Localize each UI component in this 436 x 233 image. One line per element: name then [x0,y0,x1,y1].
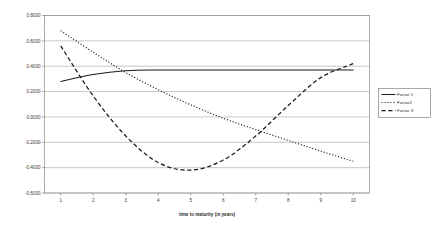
y-tick-label: -0.6000 [25,191,41,196]
legend-label-factor2: Factor2 [397,100,412,105]
legend-label-factor-3: Factor 3 [397,108,414,113]
x-tick-label: 3 [124,198,127,203]
y-tick-label: 0.2000 [26,89,40,94]
y-tick-label: -0.4000 [25,165,41,170]
legend-label-factor-1: Factor 1 [397,92,414,97]
y-tick-label: -0.2000 [25,140,41,145]
x-tick-label: 4 [157,198,160,203]
x-tick-label: 9 [319,198,322,203]
x-tick-label: 6 [222,198,225,203]
factor-loadings-line-chart: 0.80000.60000.40000.20000.0000-0.2000-0.… [0,0,436,233]
chart-background [0,0,436,233]
y-tick-label: 0.8000 [26,13,40,18]
x-tick-label: 8 [287,198,290,203]
chart-container: 0.80000.60000.40000.20000.0000-0.2000-0.… [0,0,436,233]
x-axis-title: time to maturity (in years) [179,212,236,217]
y-tick-label: 0.6000 [26,39,40,44]
x-tick-label: 10 [351,198,357,203]
x-tick-label: 7 [254,198,257,203]
y-tick-label: 0.0000 [26,115,40,120]
chart-legend: Factor 1Factor2Factor 3 [379,89,431,118]
x-tick-label: 5 [189,198,192,203]
x-tick-label: 1 [59,198,62,203]
y-tick-label: 0.4000 [26,64,40,69]
x-tick-label: 2 [92,198,95,203]
